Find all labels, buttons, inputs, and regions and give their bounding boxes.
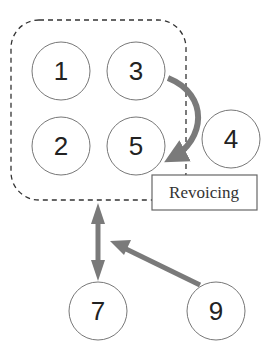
node-2: 2: [32, 117, 90, 175]
svg-text:5: 5: [129, 131, 143, 161]
revoicing-label-box: Revoicing: [152, 175, 257, 210]
group-boundary: [11, 20, 186, 200]
node-5: 5: [107, 117, 165, 175]
svg-text:4: 4: [224, 124, 238, 154]
svg-text:9: 9: [209, 296, 223, 326]
svg-text:1: 1: [54, 56, 68, 86]
svg-text:7: 7: [91, 296, 105, 326]
double-arrow-7-group: [91, 203, 105, 281]
arrow-9-to-link: [110, 240, 200, 285]
diagram-canvas: 1 3 2 5 4 7 9 Revoicing: [0, 0, 268, 348]
node-9: 9: [187, 282, 245, 340]
node-4: 4: [202, 110, 260, 168]
node-1: 1: [32, 42, 90, 100]
revoicing-arrow: [168, 78, 198, 158]
node-7: 7: [69, 282, 127, 340]
svg-text:3: 3: [129, 56, 143, 86]
svg-text:2: 2: [54, 131, 68, 161]
node-3: 3: [107, 42, 165, 100]
svg-text:Revoicing: Revoicing: [169, 183, 239, 202]
